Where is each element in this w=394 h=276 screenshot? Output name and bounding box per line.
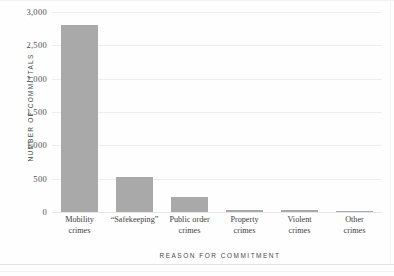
bar [171, 197, 208, 212]
bar [281, 210, 318, 212]
bar [336, 211, 373, 213]
y-axis-tick-label: 1,500 [26, 107, 47, 117]
x-axis-category-label: Violent crimes [272, 215, 327, 236]
scan-edge-bottom [0, 264, 394, 265]
x-axis-title: REASON FOR COMMITMENT [55, 252, 385, 259]
gridline [52, 145, 382, 146]
y-axis-tick-label: 500 [33, 174, 47, 184]
x-axis-category-label: Property crimes [217, 215, 272, 236]
x-axis-category-label: Public order crimes [162, 215, 217, 236]
x-axis-category-label: “Safekeeping” [107, 215, 162, 226]
y-axis-tick-label: 2,500 [26, 40, 47, 50]
x-axis-category-label: Other crimes [327, 215, 382, 236]
gridline [52, 179, 382, 180]
y-axis-tick-label: 2,000 [26, 74, 47, 84]
scan-edge-right [390, 0, 391, 264]
y-axis-tick-label: 3,000 [26, 7, 47, 17]
gridline [52, 45, 382, 46]
plot-area: 05001,0001,5002,0002,5003,000 Mobility c… [52, 12, 382, 212]
y-axis-tick-label: 0 [42, 207, 47, 217]
gridline [52, 12, 382, 13]
gridline [52, 79, 382, 80]
y-axis-tick-label: 1,000 [26, 140, 47, 150]
gridline [52, 112, 382, 113]
bar [116, 177, 153, 212]
bar [61, 25, 98, 212]
scan-edge-bottom-secondary [0, 271, 394, 272]
bar-chart-figure: NUMBER OF COMMITTALS 05001,0001,5002,000… [0, 0, 394, 276]
scan-edge-top [0, 0, 394, 1]
x-axis-category-label: Mobility crimes [52, 215, 107, 236]
bar [226, 210, 263, 212]
gridline [52, 212, 382, 213]
